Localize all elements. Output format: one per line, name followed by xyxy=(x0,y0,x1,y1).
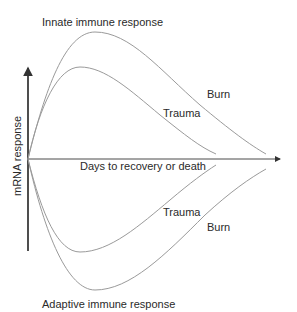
innate-burn-curve xyxy=(28,32,266,159)
adaptive-trauma-label: Trauma xyxy=(163,206,201,218)
innate-trauma-label: Trauma xyxy=(163,107,201,119)
x-axis-label: Days to recovery or death xyxy=(80,160,206,172)
adaptive-burn-label: Burn xyxy=(207,221,230,233)
immune-response-diagram: Innate immune response Burn Trauma Days … xyxy=(0,0,297,312)
innate-response-title: Innate immune response xyxy=(42,16,163,28)
adaptive-burn-curve xyxy=(28,159,266,290)
innate-burn-label: Burn xyxy=(207,88,230,100)
adaptive-response-title: Adaptive immune response xyxy=(42,298,175,310)
y-axis-label: mRNA response xyxy=(11,116,23,196)
